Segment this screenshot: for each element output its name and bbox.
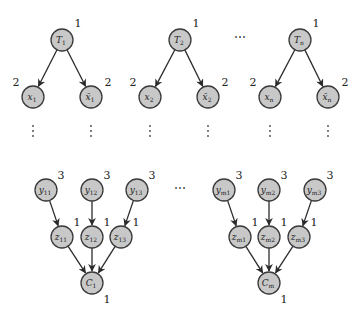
weight-z11: 1 [74, 216, 81, 229]
node-x1: x1 [22, 86, 44, 108]
edge-z13-C1 [98, 246, 115, 273]
weight-xbarn: 2 [342, 76, 349, 89]
weight-x1: 2 [13, 76, 20, 89]
edge-zm1-Cm [246, 246, 263, 273]
weight-z12: 1 [104, 216, 111, 229]
node-T1: T1 [51, 29, 73, 51]
weight-zm1: 1 [252, 216, 259, 229]
labels-layer: 12212212231313113131311⋯⋯ [13, 17, 349, 306]
node-y12: y12 [81, 179, 103, 201]
node-xn: xn [259, 86, 281, 108]
weight-zm3: 1 [311, 216, 318, 229]
graph-diagram: T1x1x̄1T2x2x̄2Tnxnx̄ny11z11y12z12y13z13C… [0, 0, 356, 322]
nodes-layer: T1x1x̄1T2x2x̄2Tnxnx̄ny11z11y12z12y13z13C… [22, 29, 339, 294]
weight-T1: 1 [75, 17, 82, 30]
node-zm1: zm1 [229, 226, 251, 248]
edge-T2-xbar2 [185, 50, 203, 86]
weight-ym1: 3 [236, 169, 243, 182]
node-ym1: ym1 [213, 179, 235, 201]
weight-Tn: 1 [313, 17, 320, 30]
edge-zm3-Cm [276, 246, 293, 273]
node-y11: y11 [35, 179, 57, 201]
node-y13: y13 [126, 179, 148, 201]
node-z13: z13 [110, 226, 132, 248]
vertical-ellipsis [207, 125, 209, 137]
edge-ym1-zm1 [228, 200, 237, 225]
weight-T2: 1 [193, 17, 200, 30]
node-xbarn: x̄n [317, 86, 339, 108]
vertical-ellipsis [32, 125, 34, 137]
edge-T2-x2 [156, 50, 175, 87]
node-Cm: Cm [258, 272, 280, 294]
weight-y12: 3 [104, 169, 111, 182]
edge-T1-xbar1 [67, 50, 86, 87]
weight-C1: 1 [104, 293, 111, 306]
node-z11: z11 [51, 226, 73, 248]
node-ym3: ym3 [304, 179, 326, 201]
node-z12: z12 [81, 226, 103, 248]
weight-y13: 3 [149, 169, 156, 182]
node-zm2: zm2 [258, 226, 280, 248]
weight-z13: 1 [133, 216, 140, 229]
weight-x2: 2 [130, 76, 137, 89]
weight-xn: 2 [250, 76, 257, 89]
node-ym2: ym2 [258, 179, 280, 201]
node-xbar2: x̄2 [197, 86, 219, 108]
vertical-ellipsis [327, 125, 329, 137]
edge-Tn-xbarn [305, 50, 323, 86]
edge-y11-z11 [50, 200, 59, 225]
weight-xbar1: 2 [105, 76, 112, 89]
weight-xbar2: 2 [222, 76, 229, 89]
node-Tn: Tn [289, 29, 311, 51]
weight-zm2: 1 [281, 216, 288, 229]
edge-T1-x1 [38, 50, 57, 87]
edge-Tn-xn [276, 50, 295, 87]
weight-ym2: 3 [281, 169, 288, 182]
node-xbar1: x̄1 [80, 86, 102, 108]
vertical-ellipsis [149, 125, 151, 137]
horizontal-ellipsis: ⋯ [234, 30, 246, 44]
horizontal-ellipsis: ⋯ [174, 181, 186, 195]
node-zm3: zm3 [288, 226, 310, 248]
node-T2: T2 [169, 29, 191, 51]
weight-y11: 3 [58, 169, 65, 182]
node-C1: C1 [81, 272, 103, 294]
vertical-ellipsis [90, 125, 92, 137]
weight-ym3: 3 [327, 169, 334, 182]
weight-Cm: 1 [281, 293, 288, 306]
node-x2: x2 [139, 86, 161, 108]
vertical-ellipsis [269, 125, 271, 137]
edge-z11-C1 [68, 246, 85, 273]
